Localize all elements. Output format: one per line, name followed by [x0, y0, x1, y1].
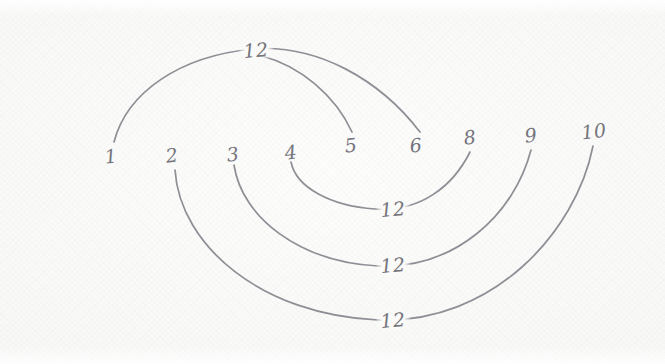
- arc-layer: [0, 0, 665, 364]
- sum-label-text: 12: [373, 307, 414, 332]
- sum-label-top: 12: [236, 39, 275, 61]
- sum-label-bottom: 12: [373, 309, 412, 331]
- node-label-4: 4: [283, 140, 298, 163]
- node-label-6: 6: [408, 133, 423, 156]
- arc-12-5: [262, 56, 352, 132]
- arc-2-10: [175, 146, 593, 320]
- node-label-10: 10: [580, 119, 608, 144]
- node-label-3: 3: [225, 142, 240, 165]
- sum-label-text: 12: [236, 37, 277, 62]
- node-label-8: 8: [462, 125, 477, 148]
- sum-label-text: 12: [373, 252, 414, 277]
- sum-label-text: 12: [373, 196, 414, 221]
- sum-label-mid-1: 12: [373, 198, 412, 220]
- node-label-2: 2: [164, 143, 179, 166]
- sum-label-mid-2: 12: [373, 254, 412, 276]
- node-label-9: 9: [523, 123, 538, 146]
- arc-group: [114, 49, 593, 321]
- node-label-5: 5: [343, 133, 358, 156]
- arc-1-6: [114, 49, 420, 142]
- node-label-1: 1: [103, 144, 118, 167]
- paper-canvas: 1 2 3 4 5 6 8 9 10 12 12 12 12: [0, 0, 665, 364]
